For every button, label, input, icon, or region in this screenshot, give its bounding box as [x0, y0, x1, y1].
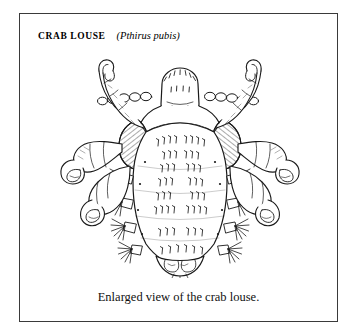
- hindleg-left: [81, 166, 130, 226]
- figure-caption: Enlarged view of the crab louse.: [20, 290, 337, 305]
- crab-louse-illustration: [34, 40, 322, 278]
- crab-louse-svg: [34, 40, 322, 278]
- hindleg-right: [230, 166, 279, 226]
- figure-plate: CRAB LOUSE(Pthirus pubis): [19, 13, 338, 322]
- abdomen: [133, 123, 227, 264]
